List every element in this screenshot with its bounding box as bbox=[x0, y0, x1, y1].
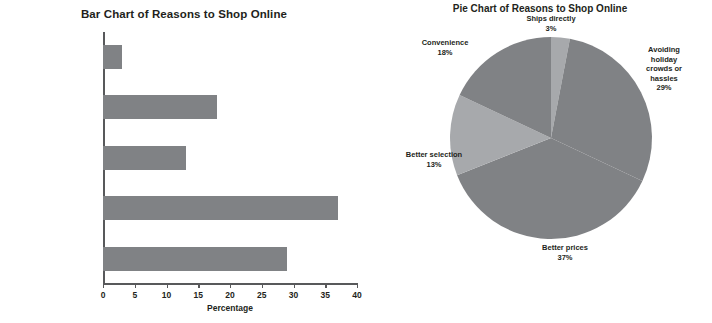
bar-chart-x-tick bbox=[198, 283, 199, 288]
bar-chart-row: Ships directly bbox=[103, 32, 357, 82]
pie-chart-slice-label: Convenience18% bbox=[422, 38, 469, 57]
pie-chart-slice-label: Avoiding holiday crowds or hassles29% bbox=[640, 45, 688, 93]
bar-chart-x-tick bbox=[294, 283, 295, 288]
pie-chart-slice-name: Avoiding holiday crowds or hassles bbox=[640, 45, 688, 83]
bar-chart-x-tick bbox=[357, 283, 358, 288]
bar-chart-bar bbox=[103, 45, 122, 69]
bar-chart-bar bbox=[103, 196, 338, 220]
bar-chart-x-tick bbox=[230, 283, 231, 288]
bar-chart-x-tick-label: 0 bbox=[88, 290, 118, 300]
bar-chart-x-tick-label: 20 bbox=[215, 290, 245, 300]
bar-chart-figure: Bar Chart of Reasons to Shop Online Main… bbox=[0, 0, 368, 323]
pie-chart-slice-percent: 3% bbox=[526, 24, 575, 34]
pie-chart-slice-label: Ships directly3% bbox=[526, 14, 575, 33]
bar-chart-row: Better selection bbox=[103, 133, 357, 183]
bar-chart-bar bbox=[103, 247, 287, 271]
bar-chart-x-tick-label: 35 bbox=[310, 290, 340, 300]
pie-chart-slice-name: Convenience bbox=[422, 38, 469, 48]
bar-chart-x-tick bbox=[103, 283, 104, 288]
bar-chart-x-tick-label: 15 bbox=[183, 290, 213, 300]
bar-chart-x-tick bbox=[262, 283, 263, 288]
bar-chart-plot-area: Ships directlyConvenienceBetter selectio… bbox=[103, 32, 357, 284]
bar-chart-title: Bar Chart of Reasons to Shop Online bbox=[0, 8, 368, 20]
pie-chart-slice-name: Better prices bbox=[542, 243, 588, 253]
bar-chart-x-tick-label: 5 bbox=[120, 290, 150, 300]
pie-chart-figure: Pie Chart of Reasons to Shop Online Ship… bbox=[368, 0, 712, 323]
bar-chart-row: Better prices bbox=[103, 183, 357, 233]
bar-chart-x-tick-label: 10 bbox=[152, 290, 182, 300]
pie-chart-slice-name: Better selection bbox=[406, 150, 462, 160]
bar-chart-bar bbox=[103, 95, 217, 119]
bar-chart-x-tick-label: 25 bbox=[247, 290, 277, 300]
bar-chart-x-tick bbox=[135, 283, 136, 288]
bar-chart-bar bbox=[103, 146, 186, 170]
bar-chart-x-axis-title: Percentage bbox=[103, 303, 357, 313]
bar-chart-row: Convenience bbox=[103, 82, 357, 132]
pie-chart-slice-percent: 29% bbox=[640, 83, 688, 93]
bar-chart-x-tick-label: 30 bbox=[279, 290, 309, 300]
pie-chart-slice-label: Better prices37% bbox=[542, 243, 588, 262]
pie-chart-slice-percent: 37% bbox=[542, 253, 588, 263]
pie-chart-slice-name: Ships directly bbox=[526, 14, 575, 24]
pie-chart-slice-label: Better selection13% bbox=[406, 150, 462, 169]
pie-chart-slice-percent: 13% bbox=[406, 160, 462, 170]
pie-chart-slice-percent: 18% bbox=[422, 48, 469, 58]
bar-chart-row: Avoiding holiday crowds or hassles bbox=[103, 234, 357, 284]
bar-chart-x-tick bbox=[167, 283, 168, 288]
bar-chart-x-tick bbox=[325, 283, 326, 288]
